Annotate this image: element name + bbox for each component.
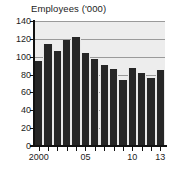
bar [90,59,99,147]
x-tick-mark [160,147,161,151]
x-tick-mark [48,147,49,151]
y-tick-mark [30,75,34,76]
y-tick-label: 120 [5,34,31,44]
bar [156,70,165,146]
bar [53,51,62,146]
bar [100,65,109,146]
y-tick-mark [30,39,34,40]
x-tick-mark [67,147,68,151]
bar [128,68,137,146]
y-axis-ticks: 020406080100120140 [0,0,31,171]
y-tick-label: 140 [5,16,31,26]
bar-chart: Employees ('000) 020406080100120140 2000… [0,0,169,171]
x-tick-mark [132,147,133,151]
x-tick-mark [114,147,115,151]
x-tick-mark [85,147,86,151]
y-tick-label: 60 [5,87,31,97]
bars-group [34,21,165,146]
x-tick-mark [39,147,40,151]
y-tick-mark [30,128,34,129]
y-tick-mark [30,21,34,22]
x-tick-mark [95,147,96,151]
x-tick-mark [142,147,143,151]
x-tick-label: 2000 [29,152,49,162]
bar [137,73,146,146]
x-tick-mark [76,147,77,151]
y-tick-label: 40 [5,105,31,115]
x-tick-label: 10 [127,152,137,162]
y-tick-mark [30,110,34,111]
x-tick-mark [123,147,124,151]
bar [109,69,118,146]
bar [43,44,52,146]
y-tick-mark [30,57,34,58]
x-axis-line [30,145,167,147]
x-tick-mark [151,147,152,151]
bar [71,37,80,146]
x-tick-mark [104,147,105,151]
y-tick-label: 80 [5,70,31,80]
y-tick-mark [30,92,34,93]
x-tick-label: 05 [80,152,90,162]
y-tick-label: 100 [5,52,31,62]
x-tick-mark [57,147,58,151]
y-tick-label: 0 [5,141,31,151]
y-tick-mark [30,146,34,147]
bar [81,53,90,146]
x-tick-label: 13 [155,152,165,162]
bar [34,61,43,146]
bar [146,78,155,146]
plot-area [34,21,165,146]
bar [118,80,127,146]
bar [62,40,71,146]
y-tick-label: 20 [5,123,31,133]
chart-title: Employees ('000) [31,3,106,14]
